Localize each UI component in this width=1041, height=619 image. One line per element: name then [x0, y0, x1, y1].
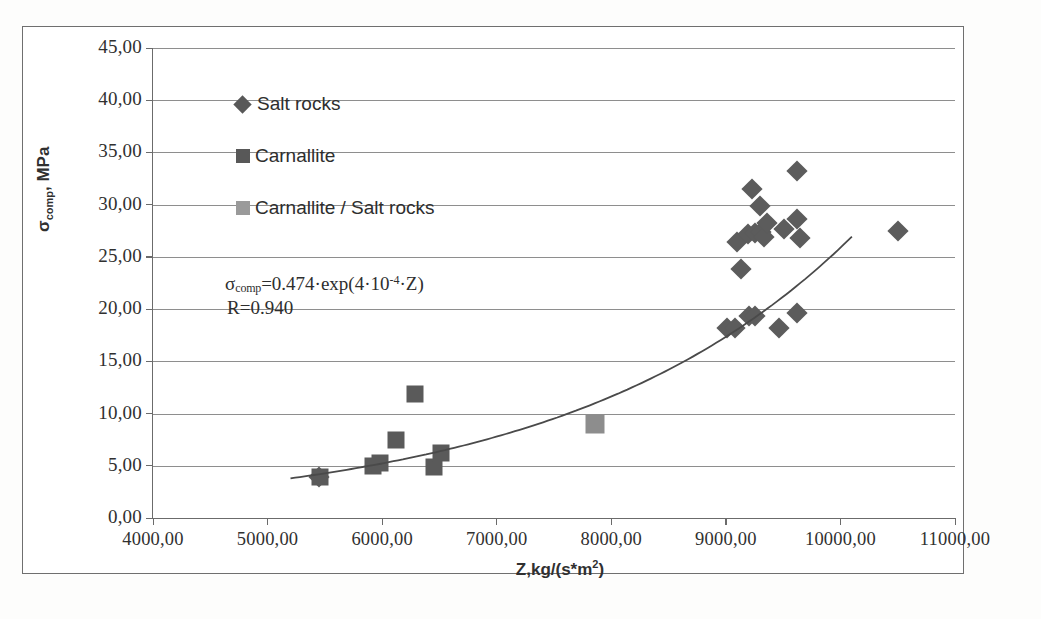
data-point-square: [432, 445, 449, 462]
x-tick-label: 11000,00: [920, 529, 990, 550]
y-tick-mark: [146, 361, 153, 362]
correlation-line: R=0.940: [225, 296, 424, 320]
y-tick-mark: [146, 204, 153, 205]
y-tick-mark: [146, 152, 153, 153]
y-tick-mark: [146, 309, 153, 310]
chart-page: 0,005,0010,0015,0020,0025,0030,0035,0040…: [0, 0, 1041, 619]
y-axis-tick-labels: 0,005,0010,0015,0020,0025,0030,0035,0040…: [0, 0, 142, 619]
y-tick-mark: [146, 465, 153, 466]
y-tick-label: 25,00: [98, 245, 142, 267]
chart-legend: Salt rocks Carnallite Carnallite / Salt …: [236, 78, 536, 234]
y-axis-line: [152, 48, 153, 519]
x-tick-label: 10000,00: [805, 529, 876, 550]
square-light-icon: [236, 201, 250, 215]
x-tick-mark: [496, 518, 497, 525]
legend-item-salt-rocks: Salt rocks: [236, 78, 536, 130]
x-tick-label: 8000,00: [581, 529, 643, 550]
legend-item-carnallite-salt-rocks: Carnallite / Salt rocks: [236, 182, 536, 234]
x-tick-label: 9000,00: [695, 529, 757, 550]
y-tick-label: 40,00: [98, 88, 142, 110]
x-tick-mark: [955, 518, 956, 525]
diamond-icon: [233, 95, 251, 113]
x-tick-label: 5000,00: [237, 529, 299, 550]
x-axis-title: Z,kg/(s*m2): [516, 558, 604, 580]
equation-line: σcomp=0.474·exp(4·10-4·Z): [225, 272, 424, 296]
gridline-horizontal: [153, 257, 955, 258]
x-tick-label: 6000,00: [351, 529, 413, 550]
data-point-square-light: [586, 415, 605, 434]
data-point-square: [407, 385, 424, 402]
gridline-horizontal: [153, 48, 955, 49]
y-tick-label: 35,00: [98, 140, 142, 162]
legend-label-carnallite-salt-rocks: Carnallite / Salt rocks: [255, 197, 435, 219]
y-tick-mark: [146, 100, 153, 101]
y-tick-label: 10,00: [98, 402, 142, 424]
data-point-square: [371, 454, 388, 471]
y-axis-title: σcomp, MPa: [34, 147, 55, 232]
square-icon: [236, 149, 250, 163]
x-tick-mark: [382, 518, 383, 525]
x-axis-line: [153, 518, 956, 519]
y-tick-label: 0,00: [108, 506, 142, 528]
y-tick-label: 30,00: [98, 193, 142, 215]
y-tick-label: 5,00: [108, 454, 142, 476]
y-tick-label: 20,00: [98, 297, 142, 319]
y-tick-label: 45,00: [98, 36, 142, 58]
x-tick-mark: [725, 518, 726, 525]
legend-label-salt-rocks: Salt rocks: [257, 93, 340, 115]
y-tick-label: 15,00: [98, 349, 142, 371]
legend-label-carnallite: Carnallite: [255, 145, 335, 167]
x-tick-mark: [611, 518, 612, 525]
y-tick-mark: [146, 48, 153, 49]
x-tick-label: 4000,00: [122, 529, 184, 550]
gridline-horizontal: [153, 414, 955, 415]
x-tick-mark: [840, 518, 841, 525]
equation-annotation: σcomp=0.474·exp(4·10-4·Z) R=0.940: [225, 272, 424, 321]
x-tick-mark: [267, 518, 268, 525]
x-tick-mark: [153, 518, 154, 525]
data-point-square: [312, 469, 329, 486]
gridline-horizontal: [153, 361, 955, 362]
data-point-square: [387, 431, 404, 448]
gridline-horizontal: [153, 466, 955, 467]
legend-item-carnallite: Carnallite: [236, 130, 536, 182]
x-tick-label: 7000,00: [466, 529, 528, 550]
y-tick-mark: [146, 256, 153, 257]
y-tick-mark: [146, 413, 153, 414]
